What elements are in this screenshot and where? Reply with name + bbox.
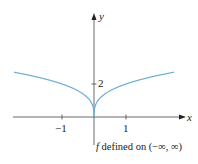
- y-axis-arrow-icon: [92, 13, 97, 20]
- x-axis-arrow-icon: [179, 115, 186, 120]
- tick-label-1: 1: [123, 123, 129, 134]
- tick-label-neg1: −1: [55, 123, 67, 134]
- tick-label-2: 2: [98, 78, 104, 89]
- caption-text: defined on (−∞, ∞): [99, 141, 182, 152]
- caption: f defined on (−∞, ∞): [96, 142, 182, 153]
- y-axis-label: y: [99, 11, 104, 22]
- x-axis-label: x: [187, 112, 192, 123]
